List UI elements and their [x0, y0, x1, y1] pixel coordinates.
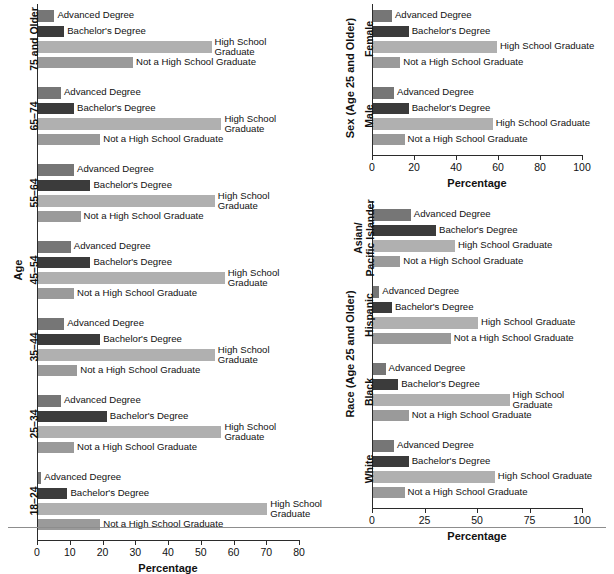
bar-value-label: Bachelor's Degree: [412, 456, 491, 467]
bar-bachelors_degree: [373, 456, 409, 468]
group-label: 35–44: [28, 332, 40, 361]
x-axis-tick: [477, 509, 478, 513]
bar-value-label: Bachelor's Degree: [93, 180, 172, 191]
bar-advanced_degree: [373, 10, 392, 22]
bar-bachelors_degree: [373, 26, 409, 38]
bar-value-label: Not a High School Graduate: [403, 256, 523, 267]
bar-value-label: Bachelor's Degree: [401, 379, 480, 390]
bar-value-label: Advanced Degree: [382, 286, 459, 297]
x-axis-tick-label: 75: [524, 514, 536, 526]
x-axis-tick-label: 0: [369, 514, 375, 526]
bar-advanced_degree: [373, 87, 394, 99]
bar-value-label: High School Graduate: [224, 114, 282, 135]
bar-value-label: Advanced Degree: [389, 363, 466, 374]
bar-value-label: Bachelor's Degree: [412, 26, 491, 37]
bar-value-label: High School Graduate: [496, 118, 590, 129]
bar-not_a_high_school_graduate: [373, 256, 400, 268]
bar-value-label: Bachelor's Degree: [412, 103, 491, 114]
bar-high_school_graduate: [38, 503, 267, 515]
bar-high_school_graduate: [38, 426, 221, 438]
bar-advanced_degree: [38, 87, 61, 99]
group-label: 65–74: [28, 101, 40, 130]
bar-not_a_high_school_graduate: [373, 410, 409, 422]
bar-bachelors_degree: [38, 103, 74, 115]
x-axis-tick-label: 0: [34, 546, 40, 558]
group-label: 55–64: [28, 178, 40, 207]
bar-value-label: Bachelor's Degree: [439, 225, 518, 236]
x-axis-tick: [582, 156, 583, 160]
bar-value-label: Advanced Degree: [77, 164, 154, 175]
bar-advanced_degree: [38, 318, 64, 330]
bar-advanced_degree: [373, 363, 386, 375]
bar-bachelors_degree: [373, 103, 409, 115]
group-label: White: [363, 455, 375, 484]
x-axis-tick: [414, 156, 415, 160]
group-label: Hispanic: [363, 293, 375, 337]
y-axis-title: Race (Age 25 and Older): [344, 290, 356, 417]
bar-bachelors_degree: [38, 411, 107, 423]
bar-advanced_degree: [38, 241, 71, 253]
bar-value-label: Not a High School Graduate: [84, 211, 204, 222]
x-axis-tick: [201, 541, 202, 545]
y-axis-title: Age: [12, 260, 24, 281]
x-axis-tick-label: 25: [419, 514, 431, 526]
bar-value-label: Not a High School Graduate: [454, 333, 574, 344]
x-axis-tick-label: 20: [97, 546, 109, 558]
bar-value-label: High School Graduate: [500, 41, 594, 52]
x-axis-tick-label: 80: [293, 546, 305, 558]
bar-advanced_degree: [373, 440, 394, 452]
chart-panel-race: 0255075100PercentageAdvanced DegreeBache…: [330, 195, 614, 534]
bar-not_a_high_school_graduate: [38, 365, 77, 377]
bar-not_a_high_school_graduate: [38, 134, 100, 146]
footer-divider: [8, 527, 606, 528]
group-label: Female: [363, 21, 375, 57]
x-axis-tick-label: 60: [228, 546, 240, 558]
bar-value-label: Not a High School Graduate: [80, 365, 200, 376]
bar-not_a_high_school_graduate: [38, 519, 100, 531]
x-axis-tick: [540, 156, 541, 160]
group-label: Male: [363, 104, 375, 127]
bar-value-label: Not a High School Graduate: [412, 410, 532, 421]
x-axis-tick-label: 40: [450, 161, 462, 173]
bar-advanced_degree: [38, 395, 61, 407]
bar-value-label: Bachelor's Degree: [77, 103, 156, 114]
x-axis-tick: [70, 541, 71, 545]
bar-value-label: High School Graduate: [228, 268, 286, 289]
bar-value-label: High School Graduate: [481, 317, 575, 328]
bar-not_a_high_school_graduate: [373, 57, 400, 69]
x-axis-tick: [372, 156, 373, 160]
bar-high_school_graduate: [38, 195, 215, 207]
bar-value-label: Not a High School Graduate: [403, 57, 523, 68]
bar-not_a_high_school_graduate: [38, 211, 81, 223]
bar-value-label: Advanced Degree: [57, 10, 134, 21]
x-axis-tick: [456, 156, 457, 160]
bar-advanced_degree: [38, 10, 54, 22]
bar-high_school_graduate: [38, 272, 225, 284]
bar-high_school_graduate: [373, 317, 478, 329]
x-axis-tick-label: 70: [260, 546, 272, 558]
bar-advanced_degree: [38, 164, 74, 176]
bar-value-label: Bachelor's Degree: [70, 488, 149, 499]
bar-value-label: Bachelor's Degree: [93, 257, 172, 268]
bar-value-label: High School Graduate: [218, 345, 276, 366]
bar-value-label: Advanced Degree: [64, 395, 141, 406]
x-axis-title: Percentage: [447, 530, 506, 542]
bar-value-label: Not a High School Graduate: [408, 134, 528, 145]
group-label: 25–34: [28, 409, 40, 438]
bar-value-label: High School Graduate: [218, 191, 276, 212]
bar-bachelors_degree: [38, 180, 90, 192]
chart-panel-sex: 020406080100PercentageAdvanced DegreeBac…: [330, 0, 614, 195]
bar-not_a_high_school_graduate: [373, 333, 451, 345]
bar-value-label: High School Graduate: [224, 422, 282, 443]
bar-value-label: Bachelor's Degree: [110, 411, 189, 422]
x-axis-tick: [582, 509, 583, 513]
x-axis-tick: [266, 541, 267, 545]
bar-value-label: Bachelor's Degree: [395, 302, 474, 313]
bar-bachelors_degree: [373, 379, 398, 391]
x-axis-tick-label: 30: [129, 546, 141, 558]
bar-value-label: Advanced Degree: [397, 440, 474, 451]
x-axis-tick: [135, 541, 136, 545]
bar-bachelors_degree: [38, 257, 90, 269]
x-axis-title: Percentage: [447, 177, 506, 189]
bar-high_school_graduate: [373, 471, 495, 483]
